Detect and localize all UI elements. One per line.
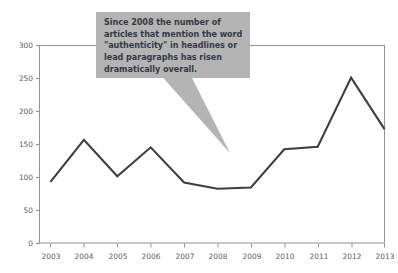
- x-tick-label-2004: 2004: [70, 252, 98, 261]
- annotation-callout-text: Since 2008 the number of articles that m…: [104, 17, 243, 76]
- annotation-callout: Since 2008 the number of articles that m…: [96, 12, 250, 78]
- y-tick-label-250: 250: [6, 74, 33, 83]
- x-tick-label-2013: 2013: [371, 252, 398, 261]
- x-axis-ticks: [51, 244, 385, 248]
- x-tick-label-2009: 2009: [238, 252, 266, 261]
- y-tick-label-200: 200: [6, 107, 33, 116]
- y-tick-label-150: 150: [6, 140, 33, 149]
- x-tick-label-2011: 2011: [305, 252, 333, 261]
- data-series-line: [51, 78, 385, 189]
- x-tick-label-2007: 2007: [171, 252, 199, 261]
- y-tick-label-100: 100: [6, 173, 33, 182]
- x-tick-label-2003: 2003: [37, 252, 65, 261]
- x-tick-label-2012: 2012: [338, 252, 366, 261]
- line-chart: Since 2008 the number of articles that m…: [0, 0, 398, 273]
- x-tick-label-2010: 2010: [271, 252, 299, 261]
- y-tick-label-300: 300: [6, 41, 33, 50]
- x-tick-label-2006: 2006: [137, 252, 165, 261]
- y-tick-label-0: 0: [6, 239, 33, 248]
- y-tick-label-50: 50: [6, 206, 33, 215]
- x-tick-label-2008: 2008: [204, 252, 232, 261]
- x-tick-label-2005: 2005: [104, 252, 132, 261]
